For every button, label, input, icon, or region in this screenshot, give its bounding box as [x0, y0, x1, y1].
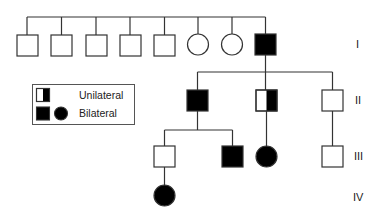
generation-label-III: III	[354, 150, 363, 162]
male-unaffected-III-4	[322, 146, 343, 167]
unilateral-symbol-icon	[37, 89, 50, 102]
male-unaffected-I-3	[86, 35, 107, 56]
male-unaffected-I-5	[154, 35, 175, 56]
generation-III	[154, 146, 343, 167]
female-unaffected-I-7	[222, 34, 243, 55]
male-unilateral-II-2	[256, 90, 277, 111]
legend: Unilateral Bilateral	[32, 84, 135, 125]
bilateral-male-symbol-icon	[37, 107, 50, 120]
male-unaffected-I-2	[51, 35, 72, 56]
male-unaffected-III-1	[154, 146, 175, 167]
male-bilateral-I-8	[255, 34, 276, 55]
male-bilateral-III-2	[222, 146, 243, 167]
generation-I	[17, 34, 276, 56]
female-bilateral-IV-1	[154, 185, 175, 206]
legend-unilateral-label: Unilateral	[79, 89, 123, 101]
female-unaffected-I-6	[188, 34, 209, 55]
male-bilateral-II-1	[187, 90, 208, 111]
male-unaffected-I-4	[120, 35, 141, 56]
generation-label-IV: IV	[353, 191, 363, 203]
pedigree-diagram: I II III IV Unilateral Bilateral	[0, 0, 377, 218]
male-unaffected-II-3	[322, 90, 343, 111]
generation-label-I: I	[356, 38, 359, 50]
male-unaffected-I-1	[17, 35, 38, 56]
bilateral-female-symbol-icon	[55, 107, 68, 120]
generation-IV	[154, 185, 175, 206]
legend-bilateral-label: Bilateral	[79, 107, 117, 119]
female-bilateral-III-3	[256, 146, 277, 167]
generation-II	[187, 90, 343, 111]
generation-label-II: II	[355, 94, 361, 106]
